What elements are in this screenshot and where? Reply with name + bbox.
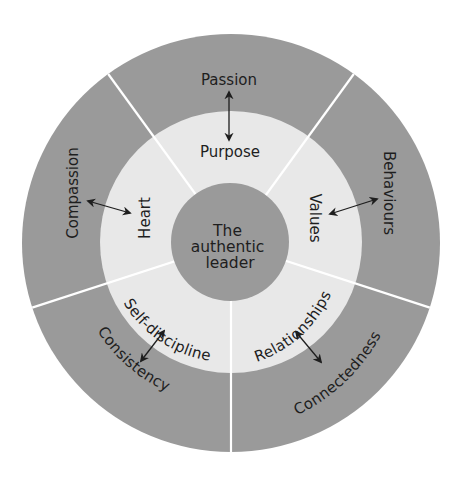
- authentic-leader-diagram: The authentic leader Passion Purpose Val…: [0, 0, 463, 485]
- outer-label-behaviours: Behaviours: [380, 151, 398, 235]
- outer-label-passion: Passion: [201, 71, 257, 89]
- inner-label-heart: Heart: [136, 197, 154, 239]
- outer-label-compassion: Compassion: [64, 147, 82, 238]
- inner-label-purpose: Purpose: [200, 143, 260, 161]
- inner-label-values: Values: [306, 193, 324, 242]
